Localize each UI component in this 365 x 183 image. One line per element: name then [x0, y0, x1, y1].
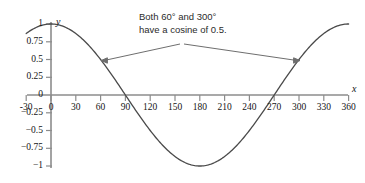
x-tick-label: 270: [267, 103, 281, 113]
x-tick-label: 210: [217, 103, 231, 113]
y-tick-label: 1: [10, 19, 43, 29]
y-tick-label: 0.25: [10, 73, 43, 83]
y-axis-label: y: [56, 17, 60, 27]
y-tick-label: 0.5: [10, 55, 43, 65]
annotation-line-1: Both 60° and 300°: [139, 11, 216, 24]
x-tick-label: 60: [96, 103, 106, 113]
x-tick-label: 360: [341, 103, 355, 113]
x-tick-label: 330: [317, 103, 331, 113]
annotation-leader-lines: [101, 44, 300, 63]
y-tick-label: −1: [10, 161, 43, 171]
x-tick-label: 150: [168, 103, 182, 113]
x-tick-label: 90: [121, 103, 131, 113]
x-tick-label: -30: [20, 103, 33, 113]
x-tick-label: 30: [71, 103, 81, 113]
y-tick-label: −0.5: [10, 126, 43, 136]
y-tick-label: 0: [10, 90, 43, 100]
x-tick-label: 0: [49, 103, 54, 113]
annotation-line-2: have a cosine of 0.5.: [139, 24, 227, 37]
x-tick-label: 120: [143, 103, 157, 113]
x-axis-ticks: [26, 95, 348, 101]
x-tick-label: 240: [242, 103, 256, 113]
y-tick-label: 0.75: [10, 37, 43, 47]
x-axis-label: x: [352, 84, 356, 94]
x-tick-label: 300: [292, 103, 306, 113]
x-tick-label: 180: [193, 103, 207, 113]
y-tick-label: −0.75: [10, 144, 43, 154]
cosine-chart: 1 0.75 0.5 0.25 0 −0.25 −0.5 −0.75 −1 -3…: [0, 0, 365, 183]
